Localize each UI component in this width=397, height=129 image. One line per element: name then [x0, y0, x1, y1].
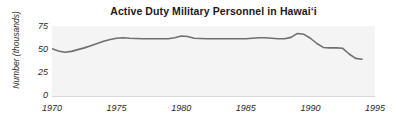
y-tick-label: 25: [18, 67, 48, 77]
x-tick-label: 1985: [226, 103, 266, 114]
x-axis-rule: [52, 96, 375, 97]
data-line-svg: [52, 26, 375, 96]
x-tick-label: 1980: [161, 103, 201, 114]
y-tick-label: 50: [18, 44, 48, 54]
chart-title: Active Duty Military Personnel in Hawaiʻ…: [52, 5, 375, 18]
plot-area: [52, 26, 375, 96]
x-tick-label: 1970: [32, 103, 72, 114]
x-tick-label: 1995: [355, 103, 395, 114]
x-tick-label: 1990: [290, 103, 330, 114]
y-tick-label: 0: [18, 90, 48, 100]
data-line: [52, 33, 362, 59]
chart-figure: Active Duty Military Personnel in Hawaiʻ…: [0, 0, 397, 129]
x-tick-label: 1975: [97, 103, 137, 114]
y-tick-label: 75: [18, 21, 48, 31]
